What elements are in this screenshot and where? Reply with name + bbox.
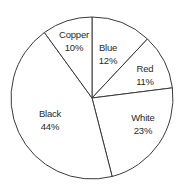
pie-chart: Blue 12% Red 11% White 23% Black 44% Cop…	[0, 0, 181, 195]
pie-chart-svg: Blue 12% Red 11% White 23% Black 44% Cop…	[0, 0, 181, 195]
slice-label-copper: Copper	[59, 29, 89, 40]
slice-label-black: Black	[39, 108, 62, 119]
slice-value-red: 11%	[136, 76, 154, 87]
slice-label-blue: Blue	[99, 42, 117, 53]
slice-value-blue: 12%	[99, 55, 118, 66]
slice-label-white: White	[131, 112, 154, 123]
slice-value-white: 23%	[134, 125, 153, 136]
slice-label-red: Red	[137, 63, 154, 74]
pie-slices	[11, 17, 173, 179]
slice-value-black: 44%	[41, 121, 60, 132]
slice-value-copper: 10%	[65, 42, 84, 53]
